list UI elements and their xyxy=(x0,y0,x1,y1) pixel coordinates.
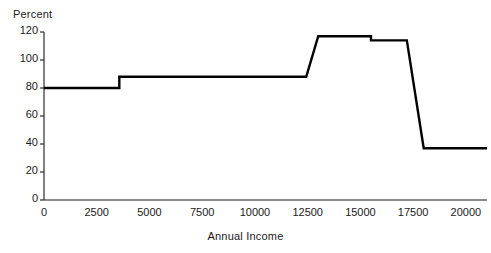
x-axis-tick-label: 12500 xyxy=(292,206,323,218)
x-axis-tick-label: 2500 xyxy=(84,206,108,218)
x-axis-title: Annual Income xyxy=(0,230,491,242)
x-axis-tick-label: 20000 xyxy=(451,206,482,218)
y-axis-ticks xyxy=(40,32,44,200)
chart-container: Percent 020406080100120 0250050007500100… xyxy=(0,0,491,253)
x-axis-tick-label: 17500 xyxy=(398,206,429,218)
x-axis-tick-label: 0 xyxy=(41,206,47,218)
x-axis-tick-label: 10000 xyxy=(240,206,271,218)
axes xyxy=(40,32,487,200)
x-axis-tick-label: 5000 xyxy=(137,206,161,218)
data-series-line xyxy=(44,36,487,148)
x-axis-tick-label: 7500 xyxy=(190,206,214,218)
x-axis-tick-label: 15000 xyxy=(345,206,376,218)
